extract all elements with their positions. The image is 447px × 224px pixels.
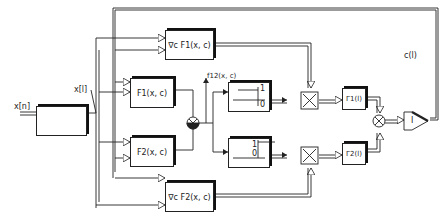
comparator-2-low: 0	[252, 150, 257, 158]
summing-junction-1	[187, 117, 199, 129]
comparator-1-high: 1	[260, 85, 265, 93]
comparator-2-high: 1	[252, 141, 257, 149]
comparator-1-low: 0	[260, 101, 265, 109]
window-block	[36, 106, 87, 136]
block-diagram: ∇c F1(x, c) F1(x, c) F2(x, c) ∇c F2(x, c…	[0, 0, 447, 224]
f2-label: F2(x, c)	[137, 148, 167, 157]
gamma2-block: Γ2(l)	[342, 143, 366, 165]
comparator-2-block	[228, 138, 270, 168]
sampled-signal-label: x[l]	[74, 86, 87, 94]
gamma1-block: Γ1(l)	[342, 88, 366, 110]
input-label: x[n]	[14, 103, 30, 111]
f1-label: F1(x, c)	[137, 89, 167, 98]
integrator-label: I	[411, 117, 413, 125]
grad-f1-label: ∇c F1(x, c)	[168, 41, 210, 50]
c-feedback-label: c(l)	[404, 52, 417, 60]
grad-f2-block: ∇c F2(x, c)	[165, 182, 214, 212]
grad-f1-block: ∇c F1(x, c)	[165, 30, 214, 60]
f12-label: f12(x, c)	[207, 73, 236, 80]
grad-f2-label: ∇c F2(x, c)	[168, 193, 210, 202]
f1-block: F1(x, c)	[130, 78, 174, 108]
gamma2-label: Γ2(l)	[346, 150, 362, 158]
gamma1-label: Γ1(l)	[346, 95, 362, 103]
f2-block: F2(x, c)	[130, 137, 174, 167]
